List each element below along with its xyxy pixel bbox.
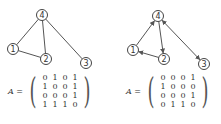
edge-2-4 — [42, 20, 45, 53]
matrix-cell: 0 — [158, 100, 168, 109]
matrix-cell: 0 — [178, 91, 188, 100]
matrix-cell: 0 — [60, 82, 70, 91]
matrix-cell: 0 — [158, 91, 168, 100]
matrix-cell: 0 — [70, 100, 80, 109]
matrix-cell: 1 — [178, 100, 188, 109]
edge-1-2 — [18, 51, 40, 58]
adjacency-matrix-directed: A = ( 0001100000010110 ) — [126, 73, 212, 109]
matrix-cell: 1 — [70, 73, 80, 82]
matrix-cell: 0 — [168, 73, 178, 82]
matrix-cell: 0 — [168, 91, 178, 100]
matrix-cell: 1 — [40, 82, 50, 91]
edge-4-2 — [159, 21, 163, 53]
matrix-cell: 1 — [168, 100, 178, 109]
matrix-cell: 1 — [70, 82, 80, 91]
matrix-cell: 1 — [188, 91, 198, 100]
matrix-label: A = — [8, 87, 23, 96]
node-1: 1 — [128, 45, 139, 56]
matrix-cell: 1 — [50, 73, 60, 82]
matrix-cell: 1 — [40, 100, 50, 109]
svg-text:1: 1 — [130, 46, 135, 55]
matrix-cell: 0 — [158, 73, 168, 82]
svg-text:3: 3 — [201, 60, 206, 69]
svg-text:3: 3 — [83, 59, 88, 68]
matrix-cell: 0 — [40, 91, 50, 100]
node-4: 4 — [37, 10, 48, 21]
node-3: 3 — [81, 58, 92, 69]
matrix-cell: 1 — [70, 91, 80, 100]
matrix-cell: 1 — [60, 100, 70, 109]
adjacency-matrix-undirected: A = ( 0101100100011110 ) — [8, 73, 94, 109]
matrix-grid: 0101100100011110 — [40, 73, 80, 109]
matrix-cell: 0 — [60, 91, 70, 100]
svg-text:4: 4 — [39, 11, 44, 20]
matrix-grid: 0001100000010110 — [158, 73, 198, 109]
node-1: 1 — [8, 44, 19, 55]
right-paren: ) — [84, 73, 91, 109]
edge-2-1 — [138, 52, 158, 58]
matrix-cell: 0 — [60, 73, 70, 82]
matrix-cell: 1 — [158, 82, 168, 91]
matrix-cell: 0 — [40, 73, 50, 82]
svg-text:2: 2 — [43, 55, 48, 64]
right-paren: ) — [202, 73, 209, 109]
matrix-cell: 0 — [188, 100, 198, 109]
svg-text:2: 2 — [161, 55, 166, 64]
node-2: 2 — [159, 54, 170, 65]
undirected-graph: 1234 — [8, 10, 92, 69]
matrix-cell: 0 — [168, 82, 178, 91]
matrix-cell: 1 — [50, 100, 60, 109]
node-4: 4 — [153, 11, 164, 22]
matrix-cell: 0 — [50, 91, 60, 100]
edge-1-4 — [17, 19, 39, 45]
matrix-cell: 0 — [50, 82, 60, 91]
edge-4-3 — [46, 19, 83, 59]
left-paren: ( — [30, 73, 37, 109]
matrix-cell: 0 — [188, 82, 198, 91]
matrix-cell: 0 — [178, 82, 188, 91]
edge-4-3 — [162, 20, 200, 60]
svg-text:4: 4 — [155, 12, 160, 21]
matrix-cell: 0 — [178, 73, 188, 82]
edge-1-4 — [136, 20, 154, 45]
matrix-label: A = — [126, 87, 141, 96]
left-paren: ( — [148, 73, 155, 109]
svg-text:1: 1 — [10, 45, 15, 54]
node-2: 2 — [41, 54, 52, 65]
node-3: 3 — [199, 59, 210, 70]
directed-graph: 1234 — [128, 11, 210, 70]
matrix-cell: 1 — [188, 73, 198, 82]
